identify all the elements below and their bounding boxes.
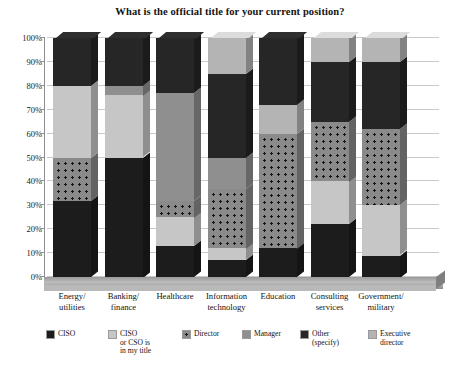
bar-top-face <box>262 32 307 38</box>
bar-column[interactable] <box>311 38 349 277</box>
chart-legend: CISOCISO or CSO is in my titleDirectorMa… <box>46 330 446 376</box>
bar-segment-side <box>400 56 407 128</box>
bar-column[interactable] <box>362 38 400 277</box>
bar-segment-side <box>143 90 150 158</box>
bar-segment-side <box>246 152 253 189</box>
legend-label: CISO or CSO is in my title <box>120 330 151 356</box>
bar-segment-side <box>400 200 407 256</box>
bar-top-face <box>314 32 359 38</box>
bar-segment[interactable] <box>311 62 349 122</box>
legend-swatch-exec <box>368 330 377 339</box>
bar-segment[interactable] <box>208 74 246 158</box>
bar-segment[interactable] <box>208 248 246 260</box>
bar-segment-side <box>349 56 356 121</box>
bar-segment-side <box>143 33 150 86</box>
bar-segment-side <box>349 176 356 224</box>
bar-segment[interactable] <box>362 38 400 62</box>
legend-label: CISO <box>58 330 75 339</box>
bar-segment-side <box>246 183 253 248</box>
legend-item[interactable]: Other (specify) <box>300 330 339 347</box>
legend-swatch-ciso <box>46 330 55 339</box>
bar-segment-side <box>400 123 407 205</box>
y-axis-line <box>44 38 45 277</box>
x-axis-label: Consulting services <box>302 291 358 312</box>
legend-swatch-director <box>182 330 191 339</box>
bar-segment[interactable] <box>259 38 297 105</box>
bar-segment-side <box>194 240 201 277</box>
bar-segment[interactable] <box>311 38 349 62</box>
legend-swatch-ciso-title <box>108 330 117 339</box>
bar-segment[interactable] <box>156 217 194 246</box>
legend-item[interactable]: Manager <box>242 330 281 339</box>
y-axis-label: 10% <box>8 249 42 257</box>
bar-segment-side <box>297 99 304 133</box>
bar-segment[interactable] <box>156 38 194 93</box>
bar-segment[interactable] <box>156 93 194 201</box>
bar-segment[interactable] <box>53 201 91 277</box>
bar-segment-side <box>91 152 98 200</box>
legend-swatch-manager <box>242 330 251 339</box>
bar-segment-side <box>91 33 98 86</box>
bar-segment-side <box>143 152 150 277</box>
bar-segment[interactable] <box>311 122 349 182</box>
x-axis-label: Information technology <box>199 291 255 312</box>
x-axis-label: Banking/ finance <box>96 291 152 312</box>
bar-column[interactable] <box>259 38 297 277</box>
legend-label: Manager <box>254 330 281 339</box>
bar-segment[interactable] <box>53 38 91 86</box>
bar-segment-side <box>194 212 201 246</box>
bar-segment-side <box>297 33 304 105</box>
bar-segment-side <box>246 33 253 74</box>
bar-segment[interactable] <box>259 134 297 249</box>
bar-segment[interactable] <box>311 181 349 224</box>
y-axis-label: 30% <box>8 201 42 209</box>
bar-segment[interactable] <box>259 105 297 134</box>
bar-segment[interactable] <box>208 189 246 249</box>
bar-segment[interactable] <box>208 38 246 74</box>
legend-item[interactable]: CISO <box>46 330 75 339</box>
bar-segment[interactable] <box>53 86 91 158</box>
bar-segment[interactable] <box>311 224 349 277</box>
bar-top-face <box>211 32 256 38</box>
bar-segment-side <box>297 243 304 277</box>
plot-area <box>47 38 439 277</box>
bar-segment[interactable] <box>53 158 91 201</box>
legend-item[interactable]: CISO or CSO is in my title <box>108 330 151 356</box>
bar-segment[interactable] <box>105 38 143 86</box>
bar-segment[interactable] <box>259 248 297 277</box>
bar-segment[interactable] <box>105 158 143 278</box>
chart-container: What is the official title for your curr… <box>0 0 460 378</box>
bar-segment[interactable] <box>362 62 400 129</box>
bar-segment[interactable] <box>362 129 400 205</box>
bar-segment[interactable] <box>208 158 246 189</box>
x-axis-label: Healthcare <box>147 291 203 302</box>
y-axis-label: 40% <box>8 177 42 185</box>
bar-segment-side <box>349 219 356 277</box>
y-axis-label: 50% <box>8 154 42 162</box>
legend-label: Other (specify) <box>312 330 339 347</box>
bar-segment[interactable] <box>362 256 400 278</box>
bar-segment[interactable] <box>156 246 194 277</box>
bar-column[interactable] <box>105 38 143 277</box>
legend-item[interactable]: Executive director <box>368 330 410 347</box>
bar-segment-side <box>91 80 98 157</box>
bar-segment[interactable] <box>105 95 143 157</box>
y-axis-label: 80% <box>8 82 42 90</box>
bar-column[interactable] <box>208 38 246 277</box>
y-axis-label: 20% <box>8 225 42 233</box>
bar-column[interactable] <box>53 38 91 277</box>
bar-column[interactable] <box>156 38 194 277</box>
bar-segment[interactable] <box>156 201 194 218</box>
y-axis-label: 0% <box>8 273 42 281</box>
bar-segment[interactable] <box>208 260 246 277</box>
bar-segment[interactable] <box>362 205 400 255</box>
bar-segment[interactable] <box>105 86 143 96</box>
bar-segment-side <box>91 195 98 277</box>
x-axis-label: Education <box>250 291 306 302</box>
legend-label: Director <box>194 330 219 339</box>
y-axis-label: 90% <box>8 58 42 66</box>
bar-segment-side <box>194 33 201 93</box>
y-axis-label: 60% <box>8 130 42 138</box>
bar-segment-side <box>297 128 304 248</box>
legend-item[interactable]: Director <box>182 330 219 339</box>
